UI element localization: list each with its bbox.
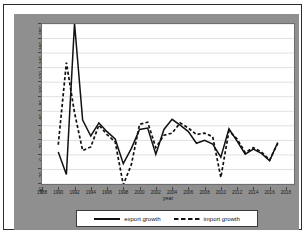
- chart-legend: export growth import growth: [76, 210, 258, 227]
- legend-label-import: import growth: [204, 216, 240, 222]
- figure-border: -40-20020406080100120140160180 198819901…: [3, 4, 302, 230]
- x-tick-mark: [237, 187, 238, 190]
- x-tick-mark: [42, 187, 43, 190]
- x-tick-mark: [123, 187, 124, 190]
- x-tick-mark: [58, 187, 59, 190]
- x-tick-mark: [188, 187, 189, 190]
- x-tick-mark: [107, 187, 108, 190]
- x-tick-mark: [140, 187, 141, 190]
- plot-panel: [41, 23, 295, 185]
- legend-item-export: export growth: [94, 216, 160, 222]
- x-tick-mark: [286, 187, 287, 190]
- x-tick-mark: [75, 187, 76, 190]
- x-tick-mark: [221, 187, 222, 190]
- legend-item-import: import growth: [174, 216, 240, 222]
- x-tick-mark: [156, 187, 157, 190]
- x-tick-mark: [205, 187, 206, 190]
- x-tick-mark: [172, 187, 173, 190]
- plot-svg: [42, 24, 294, 184]
- y-axis: -40-20020406080100120140160180: [17, 23, 41, 185]
- chart-background: -40-20020406080100120140160180 198819901…: [14, 14, 299, 230]
- figure-root: -40-20020406080100120140160180 198819901…: [0, 0, 307, 235]
- x-tick-mark: [270, 187, 271, 190]
- x-tick-mark: [91, 187, 92, 190]
- legend-label-export: export growth: [124, 216, 160, 222]
- x-axis-title: year: [41, 195, 295, 201]
- solid-line-swatch: [94, 216, 120, 222]
- dashed-line-swatch: [174, 216, 200, 222]
- x-tick-mark: [253, 187, 254, 190]
